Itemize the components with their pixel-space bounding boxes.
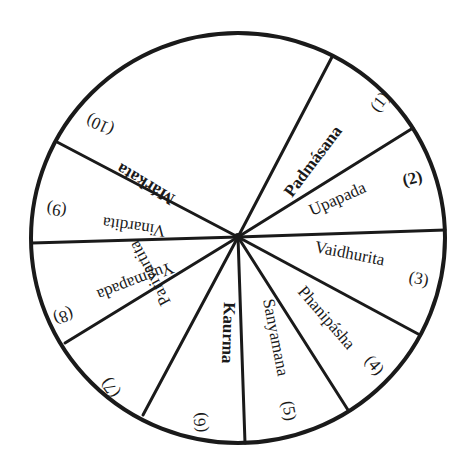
segment-number-1: (1) bbox=[366, 88, 393, 115]
hub bbox=[234, 233, 242, 241]
segment-3: Vaidhurita (3) bbox=[313, 237, 430, 289]
segment-label-markata: Márkata bbox=[113, 159, 178, 209]
segment-5: Sanyamana (5) bbox=[259, 297, 300, 422]
segment-number-8: (8) bbox=[51, 304, 76, 329]
segment-number-7: (7) bbox=[96, 374, 123, 401]
segment-label-kaurma: Kaurma bbox=[218, 302, 239, 365]
segment-10: Márkata (10) bbox=[83, 110, 178, 208]
segment-label-upapada: Upapada bbox=[306, 178, 369, 220]
segment-4: Phanipásha (4) bbox=[294, 282, 388, 378]
segment-number-2: (2) bbox=[400, 167, 424, 190]
segment-number-4: (4) bbox=[361, 351, 388, 378]
segment-number-6: (6) bbox=[190, 412, 210, 433]
spoke-sanyamana-kaurma bbox=[238, 237, 245, 443]
bandha-wheel-diagram: Padmásana (1) Upapada (2) Vaidhurita (3)… bbox=[0, 0, 473, 468]
segment-number-3: (3) bbox=[407, 267, 430, 289]
spoke-upapada-vaidhurita bbox=[238, 230, 445, 237]
segment-label-vinardita: Vinardita bbox=[101, 213, 167, 241]
segment-number-9: (9) bbox=[45, 199, 67, 221]
segment-9: Vinardita (9) bbox=[45, 199, 166, 241]
segment-1: Padmásana (1) bbox=[280, 88, 393, 200]
segment-6: Kaurma (6) bbox=[190, 302, 239, 433]
segment-number-10: (10) bbox=[83, 110, 117, 139]
segment-2: Upapada (2) bbox=[306, 167, 424, 220]
segment-number-5: (5) bbox=[278, 399, 300, 422]
segment-label-sanyamana: Sanyamana bbox=[259, 297, 293, 378]
segment-label-vaidhurita: Vaidhurita bbox=[313, 237, 387, 269]
